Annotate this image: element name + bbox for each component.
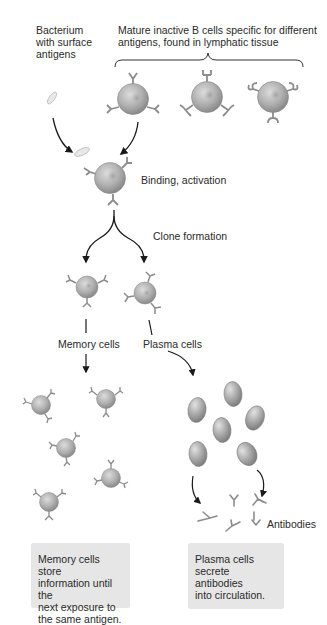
memory-cell-icon — [33, 489, 66, 520]
b-cell-icon — [107, 73, 159, 115]
arrow-icon — [168, 351, 193, 375]
memory-cell-icon — [23, 389, 55, 423]
bacterium-icon — [46, 91, 59, 106]
arrow-icon — [53, 118, 72, 152]
arrow-icon — [192, 476, 200, 503]
bracket — [115, 53, 303, 67]
memory-cell-icon — [66, 275, 108, 307]
memory-cell-icon — [49, 432, 80, 466]
arrow-icon — [114, 216, 144, 262]
memory-cell-icon — [94, 460, 128, 488]
memory-cell-icon — [89, 387, 123, 417]
antibody-icon — [198, 494, 266, 531]
plasma-cell-icon — [188, 441, 208, 467]
activated-b-cell-icon — [84, 157, 132, 205]
plasma-cell-icon — [223, 381, 243, 407]
plasma-precursor-cell-icon — [124, 272, 161, 314]
plasma-cell-icon — [233, 439, 260, 469]
b-cell-icon — [180, 70, 234, 116]
plasma-cell-icon — [242, 403, 267, 433]
plasma-cell-icon — [212, 417, 232, 443]
arrow-icon — [121, 122, 138, 154]
antigen-icon — [73, 146, 90, 159]
plasma-cell-icon — [186, 396, 207, 423]
arrow-icon — [86, 210, 114, 262]
b-cell-icon — [249, 82, 298, 124]
arrow-icon — [257, 470, 264, 496]
